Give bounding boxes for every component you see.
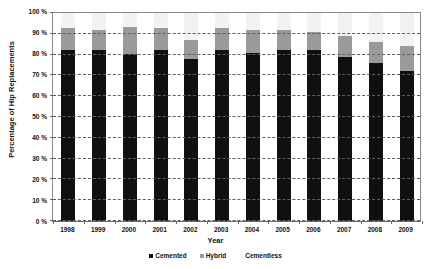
bar-segment-hybrid[interactable]	[184, 40, 198, 59]
gridline	[53, 220, 420, 221]
bar-segment-cemented[interactable]	[338, 57, 352, 221]
gridline	[53, 137, 420, 138]
bar-segment-hybrid[interactable]	[307, 32, 321, 51]
legend-label-cementless: Cementless	[245, 252, 282, 259]
bar-segment-cemented[interactable]	[184, 59, 198, 221]
gridline	[53, 158, 420, 159]
y-tick-mark	[50, 95, 53, 96]
stacked-bar-chart: Percentage of Hip Replacements 0 %10 %20…	[0, 0, 431, 269]
bar-group[interactable]	[92, 13, 106, 221]
bar-segment-cementless[interactable]	[154, 13, 168, 28]
bars-layer	[53, 13, 420, 221]
gridline	[53, 199, 420, 200]
bar-segment-cementless[interactable]	[92, 13, 106, 30]
bar-group[interactable]	[123, 13, 137, 221]
y-tick-mark	[50, 12, 53, 13]
bar-segment-cemented[interactable]	[61, 50, 75, 221]
bar-segment-hybrid[interactable]	[400, 46, 414, 71]
y-tick-label: 10 %	[5, 197, 47, 204]
bar-segment-cementless[interactable]	[400, 13, 414, 46]
bar-segment-cementless[interactable]	[369, 13, 383, 42]
bar-segment-cementless[interactable]	[307, 13, 321, 32]
y-tick-label: 80 %	[5, 50, 47, 57]
y-tick-label: 60 %	[5, 92, 47, 99]
legend-item-hybrid: Hybrid	[200, 252, 227, 259]
legend-label-hybrid: Hybrid	[206, 252, 227, 259]
bar-group[interactable]	[338, 13, 352, 221]
x-tick-mark	[299, 221, 300, 224]
bar-group[interactable]	[215, 13, 229, 221]
gridline	[53, 178, 420, 179]
x-tick-mark	[115, 221, 116, 224]
y-tick-label: 50 %	[5, 113, 47, 120]
x-tick-mark	[238, 221, 239, 224]
x-tick-mark	[268, 221, 269, 224]
x-tick-mark	[361, 221, 362, 224]
y-tick-label: 40 %	[5, 134, 47, 141]
bar-segment-hybrid[interactable]	[369, 42, 383, 63]
x-tick-mark	[330, 221, 331, 224]
y-tick-mark	[50, 74, 53, 75]
y-tick-mark	[50, 137, 53, 138]
y-tick-mark	[50, 54, 53, 55]
y-tick-mark	[50, 158, 53, 159]
bar-segment-cemented[interactable]	[369, 63, 383, 221]
bar-segment-cementless[interactable]	[123, 13, 137, 27]
bar-group[interactable]	[400, 13, 414, 221]
legend-swatch-hybrid-icon	[200, 254, 204, 258]
y-tick-label: 30 %	[5, 155, 47, 162]
y-tick-label: 100 %	[5, 8, 47, 15]
plot-area	[52, 12, 421, 222]
x-tick-mark	[422, 221, 423, 224]
x-tick-label: 2009	[386, 226, 426, 233]
legend-item-cemented: Cemented	[149, 252, 186, 259]
bar-segment-cemented[interactable]	[154, 50, 168, 221]
x-tick-mark	[145, 221, 146, 224]
gridline	[53, 33, 420, 34]
bar-segment-cementless[interactable]	[246, 13, 260, 30]
legend-item-cementless: Cementless	[239, 252, 282, 259]
gridline	[53, 116, 420, 117]
y-tick-mark	[50, 116, 53, 117]
gridline	[53, 74, 420, 75]
bar-segment-hybrid[interactable]	[154, 28, 168, 51]
gridline	[53, 54, 420, 55]
gridline	[53, 95, 420, 96]
x-axis-title: Year	[0, 236, 431, 245]
chart-legend: Cemented Hybrid Cementless	[0, 252, 431, 259]
bar-segment-hybrid[interactable]	[215, 28, 229, 51]
bar-group[interactable]	[277, 13, 291, 221]
bar-segment-cementless[interactable]	[61, 13, 75, 28]
x-tick-mark	[53, 221, 54, 224]
x-tick-mark	[391, 221, 392, 224]
bar-segment-cemented[interactable]	[215, 50, 229, 221]
x-tick-mark	[84, 221, 85, 224]
bar-segment-cementless[interactable]	[277, 13, 291, 30]
bar-group[interactable]	[154, 13, 168, 221]
bar-segment-hybrid[interactable]	[123, 27, 137, 54]
y-tick-mark	[50, 178, 53, 179]
y-tick-mark	[50, 33, 53, 34]
bar-group[interactable]	[307, 13, 321, 221]
y-tick-label: 20 %	[5, 176, 47, 183]
legend-swatch-cementless-icon	[239, 254, 243, 258]
bar-segment-cemented[interactable]	[307, 50, 321, 221]
bar-group[interactable]	[184, 13, 198, 221]
bar-group[interactable]	[369, 13, 383, 221]
x-tick-mark	[207, 221, 208, 224]
bar-segment-cemented[interactable]	[92, 50, 106, 221]
bar-group[interactable]	[61, 13, 75, 221]
bar-segment-cemented[interactable]	[277, 50, 291, 221]
y-tick-label: 70 %	[5, 71, 47, 78]
y-tick-mark	[50, 199, 53, 200]
bar-segment-hybrid[interactable]	[61, 28, 75, 51]
y-tick-label: 90 %	[5, 29, 47, 36]
bar-segment-cementless[interactable]	[215, 13, 229, 28]
legend-label-cemented: Cemented	[155, 252, 186, 259]
legend-swatch-cemented-icon	[149, 254, 153, 258]
bar-segment-cementless[interactable]	[184, 13, 198, 40]
x-tick-mark	[176, 221, 177, 224]
bar-group[interactable]	[246, 13, 260, 221]
y-tick-label: 0 %	[5, 218, 47, 225]
